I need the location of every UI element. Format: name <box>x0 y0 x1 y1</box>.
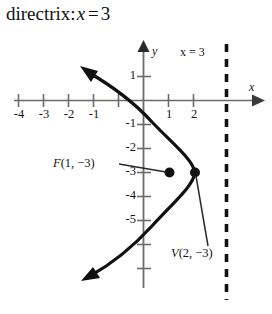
directrix-label-rest: = 3 <box>189 45 205 59</box>
x-tick-label: 1 <box>161 108 177 121</box>
parabola-lower-arrowhead <box>81 267 100 281</box>
y-tick-label: -3 <box>114 165 136 178</box>
y-tick-label: -1 <box>114 117 136 130</box>
y-tick-label: -2 <box>114 141 136 154</box>
parabola-upper-arrowhead <box>80 66 98 82</box>
x-tick-label: -3 <box>34 108 54 121</box>
caption-prefix: directrix: <box>6 3 76 24</box>
y-axis-arrowhead <box>138 40 150 52</box>
x-tick-label: -4 <box>9 108 29 121</box>
caption-equals: = <box>86 3 101 24</box>
y-tick-label: 1 <box>118 69 136 82</box>
vertex-leader-line <box>196 176 208 246</box>
caption-value: 3 <box>101 3 111 24</box>
vertex-label-coords: (2, −3) <box>179 246 213 260</box>
directrix-label: x = 3 <box>180 46 205 59</box>
y-axis <box>137 40 151 288</box>
focus-label: F(1, −3) <box>53 156 95 170</box>
x-axis-arrowhead <box>252 95 265 107</box>
x-tick-label: -1 <box>84 108 104 121</box>
parabola-figure: directrix:x=3 <box>0 0 272 314</box>
x-axis-label: x <box>249 80 254 95</box>
focus-label-name: F <box>53 156 61 170</box>
y-tick-label: -4 <box>114 189 136 202</box>
y-axis-label: y <box>152 44 157 59</box>
page-title: directrix:x=3 <box>6 2 110 26</box>
focus-label-coords: (1, −3) <box>61 156 95 170</box>
vertex-label-name: V <box>171 246 179 260</box>
caption-variable: x <box>76 3 86 24</box>
directrix-label-var: x <box>180 45 186 59</box>
x-tick-label: -2 <box>59 108 79 121</box>
y-tick-label: -5 <box>114 213 136 226</box>
graph-canvas <box>0 0 272 314</box>
x-tick-label: 2 <box>186 108 202 121</box>
focus-point <box>165 168 175 178</box>
vertex-label: V(2, −3) <box>171 246 213 260</box>
vertex-point <box>190 168 200 178</box>
